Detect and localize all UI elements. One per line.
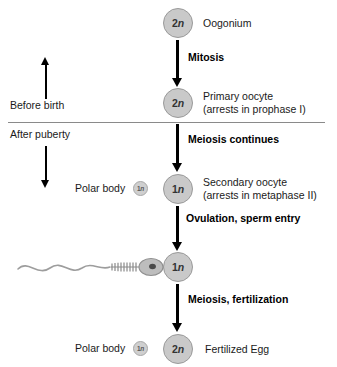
cell-oogonium: 2n	[163, 8, 193, 38]
label-fertilized-egg: Fertilized Egg	[205, 343, 269, 356]
sperm-icon	[16, 246, 171, 286]
label-polar-body-2: Polar body	[75, 342, 125, 355]
arrow-up-icon	[41, 57, 50, 99]
label-secondary-oocyte-sub: (arrests in metaphase II)	[203, 189, 317, 202]
cell-secondary-oocyte: 1n	[163, 174, 193, 204]
arrow-down-icon	[41, 146, 50, 188]
cell-ovum-ploidy: 1n	[172, 261, 184, 273]
oogenesis-diagram: 2n Oogonium Mitosis 2n Primary oocyte (a…	[0, 0, 337, 367]
cell-secondary-oocyte-ploidy: 1n	[172, 183, 184, 195]
cell-oogonium-ploidy: 2n	[172, 17, 184, 29]
label-secondary-oocyte: Secondary oocyte (arrests in metaphase I…	[203, 176, 317, 201]
cell-primary-oocyte-ploidy: 2n	[172, 97, 184, 109]
cell-primary-oocyte: 2n	[163, 88, 193, 118]
cell-polar-body-2-ploidy: 1n	[137, 345, 144, 352]
cell-polar-body-2: 1n	[133, 341, 148, 356]
label-secondary-oocyte-title: Secondary oocyte	[203, 176, 317, 189]
label-after-puberty: After puberty	[10, 128, 70, 141]
cell-polar-body-1-ploidy: 1n	[137, 185, 144, 192]
label-mitosis: Mitosis	[188, 51, 224, 63]
arrow-ovulation	[172, 206, 183, 251]
label-meiosis-continues: Meiosis continues	[188, 133, 279, 145]
cell-polar-body-1: 1n	[133, 181, 148, 196]
label-before-birth: Before birth	[10, 99, 64, 112]
timeline-divider	[8, 122, 325, 123]
label-meiosis-fertilization: Meiosis, fertilization	[188, 293, 288, 305]
cell-ovum: 1n	[163, 252, 193, 282]
label-polar-body-1: Polar body	[75, 182, 125, 195]
label-ovulation: Ovulation, sperm entry	[186, 212, 300, 224]
label-primary-oocyte-title: Primary oocyte	[203, 90, 306, 103]
label-oogonium: Oogonium	[203, 17, 251, 30]
label-primary-oocyte-sub: (arrests in prophase I)	[203, 103, 306, 116]
cell-fertilized-egg-ploidy: 2n	[172, 343, 184, 355]
arrow-mitosis	[172, 40, 183, 87]
label-primary-oocyte: Primary oocyte (arrests in prophase I)	[203, 90, 306, 115]
arrow-meiosis-continues	[172, 124, 183, 172]
arrow-meiosis-fertilization	[172, 284, 183, 332]
cell-fertilized-egg: 2n	[163, 334, 193, 364]
